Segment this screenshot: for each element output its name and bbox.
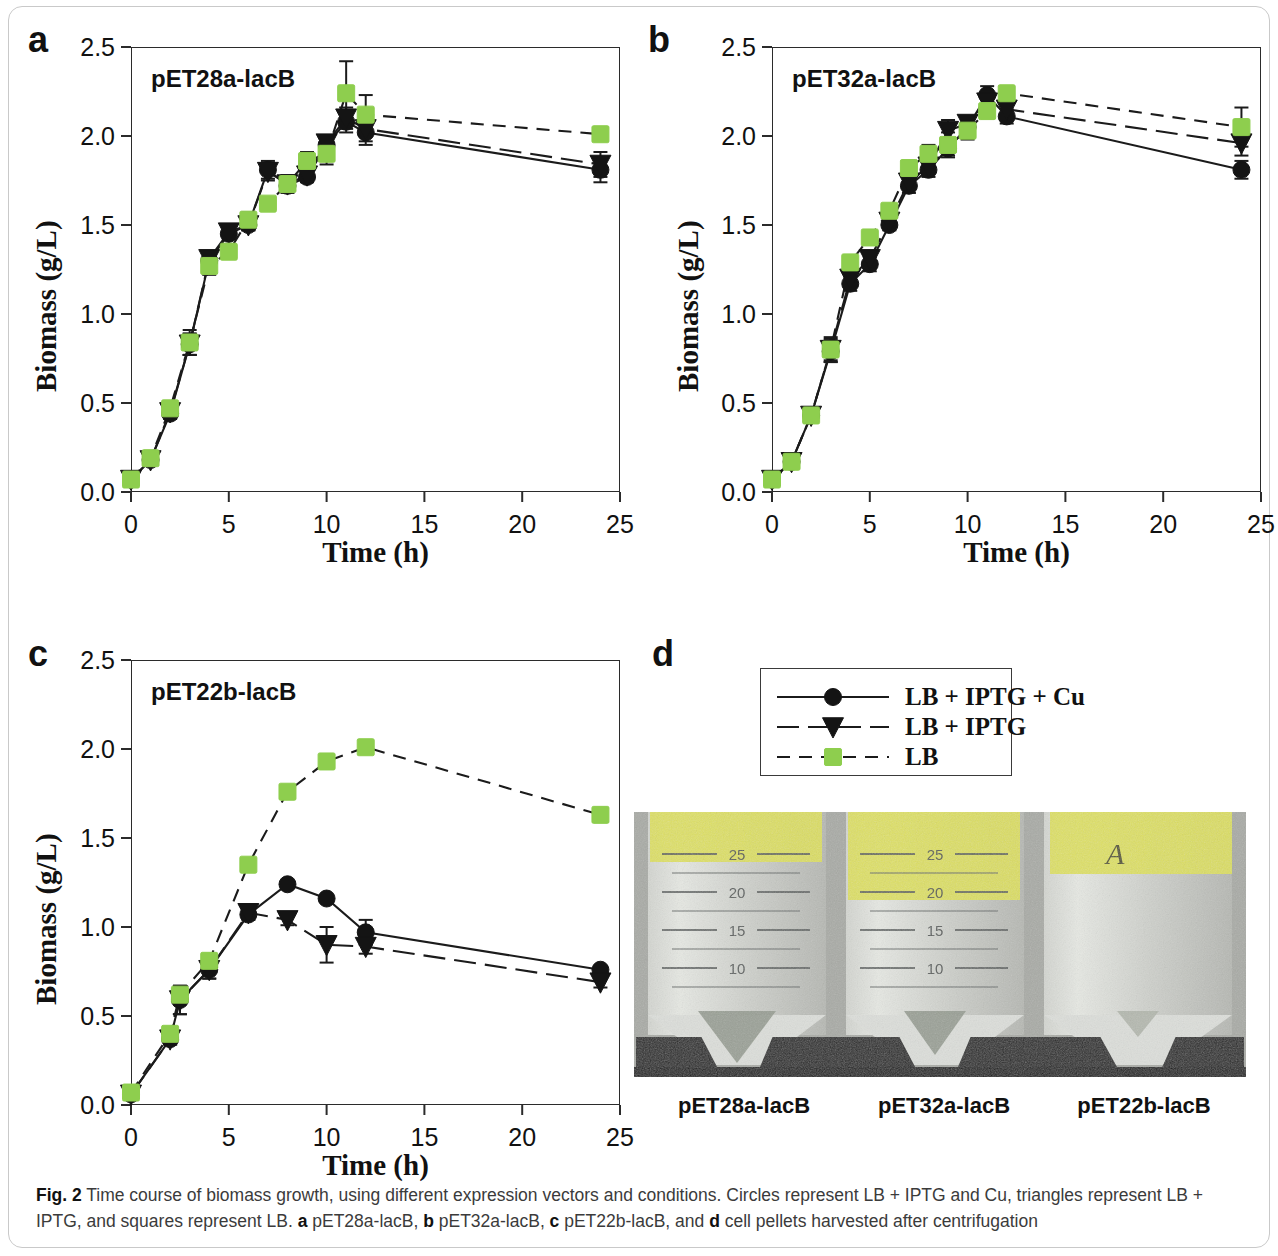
legend-swatch-circle-icon (775, 684, 891, 710)
svg-text:15: 15 (729, 922, 746, 939)
legend-label-2: LB (905, 743, 938, 771)
caption-ref-a-text: pET28a-lacB, (307, 1211, 423, 1231)
legend-swatch-triangle-down-icon (775, 714, 891, 740)
caption-ref-a: a (298, 1211, 308, 1231)
svg-text:25: 25 (729, 846, 746, 863)
xtick-label-c-5: 25 (606, 1123, 634, 1152)
legend-item-0: LB + IPTG + Cu (775, 683, 1085, 711)
caption-ref-c-text: pET22b-lacB, and (559, 1211, 709, 1231)
ytick-label-c-5: 2.5 (43, 646, 115, 675)
figure-caption-label: Fig. 2 (36, 1185, 82, 1205)
caption-ref-d: d (709, 1211, 720, 1231)
caption-ref-b-text: pET32a-lacB, (434, 1211, 550, 1231)
svg-text:A: A (1104, 837, 1125, 870)
svg-text:10: 10 (927, 960, 944, 977)
panel-letter-d: d (652, 636, 674, 672)
svg-text:25: 25 (927, 846, 944, 863)
plot-title-c: pET22b-lacB (151, 678, 296, 706)
caption-ref-b: b (423, 1211, 434, 1231)
tube-photo-canvas: 2520151025201510A (634, 812, 1246, 1077)
panel-letter-c: c (28, 636, 48, 672)
legend-item-2: LB (775, 743, 938, 771)
ytick-label-c-1: 0.5 (43, 1002, 115, 1031)
svg-text:15: 15 (927, 922, 944, 939)
tube-label-0: pET28a-lacB (678, 1093, 810, 1119)
legend-label-1: LB + IPTG (905, 713, 1026, 741)
legend-box: LB + IPTG + CuLB + IPTGLB (760, 668, 1012, 776)
svg-text:20: 20 (927, 884, 944, 901)
legend-label-0: LB + IPTG + Cu (905, 683, 1085, 711)
xtick-label-c-2: 10 (313, 1123, 341, 1152)
cell-pellet-photograph: 2520151025201510A (634, 812, 1246, 1077)
xtick-label-c-1: 5 (222, 1123, 236, 1152)
ytick-label-c-4: 2.0 (43, 735, 115, 764)
series-markers-c-0 (123, 876, 609, 1103)
ytick-label-c-0: 0.0 (43, 1091, 115, 1120)
legend-swatch-square-icon (775, 744, 891, 770)
caption-ref-d-text: cell pellets harvested after centrifugat… (720, 1211, 1038, 1231)
tube-label-1: pET32a-lacB (878, 1093, 1010, 1119)
caption-ref-c: c (550, 1211, 560, 1231)
y-axis-title-c: Biomass (g/L) (30, 833, 63, 1005)
xtick-label-c-4: 20 (508, 1123, 536, 1152)
xtick-label-c-0: 0 (124, 1123, 138, 1152)
xtick-label-c-3: 15 (410, 1123, 438, 1152)
series-errorbars-c-0 (124, 881, 607, 1098)
x-axis-title-c: Time (h) (131, 1149, 620, 1182)
legend-item-1: LB + IPTG (775, 713, 1026, 741)
svg-text:10: 10 (729, 960, 746, 977)
figure-caption: Fig. 2 Time course of biomass growth, us… (36, 1182, 1246, 1235)
series-line-c-0 (131, 884, 600, 1094)
tube-label-2: pET22b-lacB (1077, 1093, 1210, 1119)
svg-text:20: 20 (729, 884, 746, 901)
